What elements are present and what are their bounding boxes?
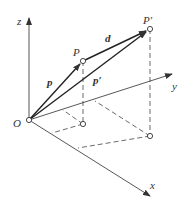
point-p-projection — [80, 121, 85, 126]
point-p-prime-projection — [147, 133, 152, 138]
vector-diagram: z y x O P P′ p p′ d — [0, 0, 190, 212]
vector-p-prime-label: p′ — [92, 74, 102, 86]
y-axis-label: y — [171, 80, 177, 92]
point-p-prime-label: P′ — [142, 14, 153, 26]
x-axis — [29, 120, 150, 196]
x-axis-label: x — [149, 179, 155, 191]
projection-lines — [52, 29, 150, 148]
point-p — [80, 58, 85, 63]
vector-d-label: d — [105, 32, 111, 44]
point-p-label: P — [72, 46, 80, 58]
origin-label: O — [13, 117, 21, 129]
z-axis-label: z — [16, 15, 22, 27]
origin-point — [26, 117, 31, 122]
point-p-prime — [147, 26, 152, 31]
vector-p-label: p — [46, 76, 53, 88]
